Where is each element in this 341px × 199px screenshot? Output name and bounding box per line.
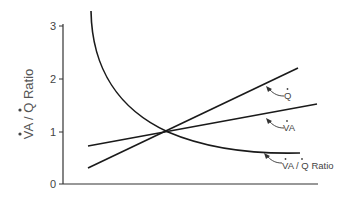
q-label: Q bbox=[284, 90, 291, 101]
y-tick-label-3: 3 bbox=[50, 20, 56, 32]
ratio-label: VA / Q Ratio bbox=[282, 160, 334, 171]
chart: 3 2 1 0 VA / Q Ratio Q VA VA / Q Ratio bbox=[0, 0, 341, 199]
y-tick-label-0: 0 bbox=[50, 178, 56, 190]
v-dot-icon bbox=[18, 132, 21, 135]
y-axis-label: VA / Q Ratio bbox=[21, 69, 36, 140]
va-arrow bbox=[270, 122, 284, 128]
q-arrow bbox=[270, 90, 284, 96]
va-label-dot-icon bbox=[286, 120, 288, 122]
ratio-label-v-dot-icon bbox=[285, 158, 287, 160]
y-tick-label-2: 2 bbox=[50, 73, 56, 85]
y-axis-label-group: VA / Q Ratio bbox=[21, 69, 36, 140]
q-dot-icon bbox=[18, 108, 21, 111]
ratio-arrow bbox=[268, 157, 282, 163]
ratio-label-q-dot-icon bbox=[301, 158, 303, 160]
y-tick-label-1: 1 bbox=[50, 126, 56, 138]
va-label: VA bbox=[283, 122, 296, 133]
q-label-dot-icon bbox=[287, 88, 289, 90]
